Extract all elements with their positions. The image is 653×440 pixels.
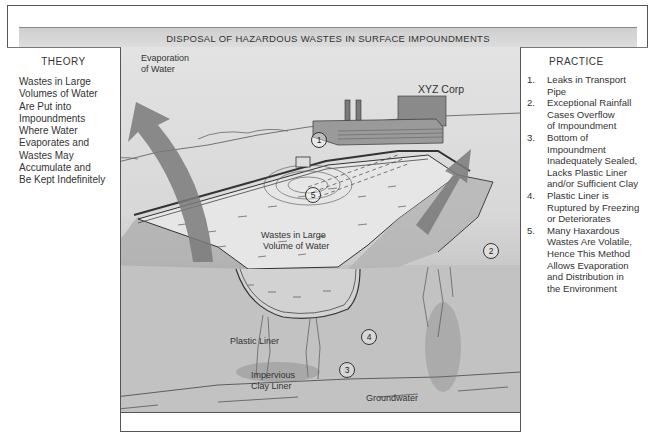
title-band: DISPOSAL OF HAZARDOUS WASTES IN SURFACE … (19, 27, 637, 49)
marker-2: 2 (483, 243, 499, 259)
theory-line: Impoundments (19, 113, 123, 125)
practice-item-line: Hence This Method (547, 248, 649, 260)
theory-heading: THEORY (7, 56, 120, 67)
practice-heading: PRACTICE (521, 56, 648, 67)
practice-item-number: 5. (527, 225, 535, 237)
practice-item-line: Pipe (547, 86, 649, 98)
marker-3: 3 (339, 362, 355, 378)
theory-text: Wastes in Large Volumes of Water Are Put… (19, 76, 123, 187)
practice-item-line: and Distribution in (547, 271, 649, 283)
practice-item-line: the Environment (547, 283, 649, 295)
marker-1: 1 (311, 132, 327, 148)
theory-line: Wastes in Large (19, 76, 123, 88)
label-clay-liner-line: Clay Liner (251, 381, 295, 392)
practice-item-line: Many Haxardous (547, 225, 649, 237)
theory-line: Where Water (19, 125, 123, 137)
label-wastes-line: Wastes in Large (261, 230, 329, 241)
label-plastic-liner: Plastic Liner (230, 336, 279, 347)
theory-line: Wastes May (19, 150, 123, 162)
practice-item-line: Impoundment (547, 144, 649, 156)
theory-line: Evaporates and (19, 137, 123, 149)
practice-item-line: Wastes Are Volatile, (547, 236, 649, 248)
practice-item-number: 2. (527, 97, 535, 109)
label-groundwater: Groundwater (366, 393, 418, 404)
practice-item-line: Allows Evaporation (547, 260, 649, 272)
practice-item-line: Plastic Liner is (547, 190, 649, 202)
practice-panel: PRACTICE 1. Leaks in Transport Pipe 2. E… (520, 47, 648, 432)
label-clay-liner-line: Impervious (251, 370, 295, 381)
marker-4: 4 (361, 329, 377, 345)
label-wastes-line: Volume of Water (261, 241, 329, 252)
practice-item-line: Cases Overflow (547, 109, 649, 121)
label-evaporation: Evaporation of Water (141, 53, 189, 74)
practice-item-number: 4. (527, 190, 535, 202)
practice-item-1: 1. Leaks in Transport Pipe (527, 74, 649, 97)
marker-5: 5 (305, 187, 321, 203)
practice-item-line: Leaks in Transport (547, 74, 649, 86)
practice-list: 1. Leaks in Transport Pipe 2. Exceptiona… (527, 74, 649, 294)
practice-item-3: 3. Bottom of Impoundment Inadequately Se… (527, 132, 649, 190)
theory-line: Are Put into (19, 101, 123, 113)
theory-line: Accumulate and (19, 162, 123, 174)
practice-item-line: or Deteriorates (547, 213, 649, 225)
practice-item-line: of Impoundment (547, 120, 649, 132)
diagram-title: DISPOSAL OF HAZARDOUS WASTES IN SURFACE … (19, 33, 637, 44)
practice-item-number: 3. (527, 132, 535, 144)
illustration: Evaporation of Water XYZ Corp Wastes in … (97, 47, 520, 413)
label-clay-liner: Impervious Clay Liner (251, 370, 295, 391)
practice-item-5: 5. Many Haxardous Wastes Are Volatile, H… (527, 225, 649, 295)
theory-line: Volumes of Water (19, 88, 123, 100)
practice-item-number: 1. (527, 74, 535, 86)
practice-item-line: Lacks Plastic Liner (547, 167, 649, 179)
practice-item-line: Ruptured by Freezing (547, 202, 649, 214)
practice-item-4: 4. Plastic Liner is Ruptured by Freezing… (527, 190, 649, 225)
practice-item-line: Bottom of (547, 132, 649, 144)
practice-item-2: 2. Exceptional Rainfall Cases Overflow o… (527, 97, 649, 132)
label-evaporation-line: Evaporation (141, 53, 189, 64)
practice-item-line: and/or Sufficient Clay (547, 178, 649, 190)
label-evaporation-line: of Water (141, 64, 189, 75)
practice-item-line: Exceptional Rainfall (547, 97, 649, 109)
practice-item-line: Inadequately Sealed, (547, 155, 649, 167)
label-wastes: Wastes in Large Volume of Water (261, 230, 329, 251)
theory-panel: THEORY Wastes in Large Volumes of Water … (7, 47, 121, 432)
theory-line: Be Kept Indefinitely (19, 174, 123, 186)
label-company: XYZ Corp (418, 84, 464, 95)
